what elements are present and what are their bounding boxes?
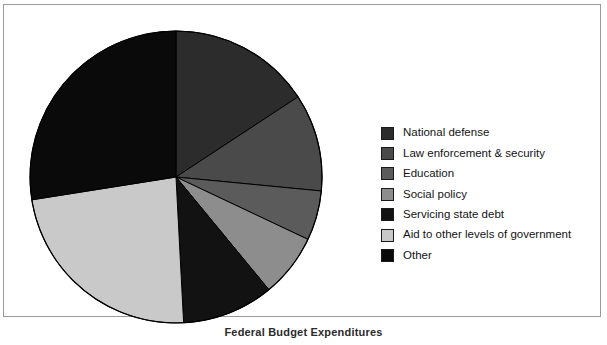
legend-color-swatch xyxy=(381,167,394,180)
legend-item-label: National defense xyxy=(403,127,489,139)
chart-frame: National defenseLaw enforcement & securi… xyxy=(3,4,601,317)
chart-footer-caption: Federal Budget Expenditures xyxy=(0,326,607,345)
pie-slice xyxy=(32,177,184,323)
pie-slice-group xyxy=(30,31,322,323)
legend-item-label: Social policy xyxy=(403,189,467,201)
chart-legend: National defenseLaw enforcement & securi… xyxy=(381,123,596,266)
pie-slice xyxy=(30,31,176,200)
pie-chart xyxy=(29,25,329,325)
legend-item: Other xyxy=(381,245,596,265)
legend-item-label: Law enforcement & security xyxy=(403,148,545,160)
legend-item: Aid to other levels of government xyxy=(381,225,596,245)
legend-item-label: Education xyxy=(403,168,454,180)
legend-color-swatch xyxy=(381,208,394,221)
legend-color-swatch xyxy=(381,127,394,140)
legend-item-label: Aid to other levels of government xyxy=(403,229,571,241)
legend-color-swatch xyxy=(381,249,394,262)
legend-item: Education xyxy=(381,164,596,184)
legend-color-swatch xyxy=(381,147,394,160)
legend-item-label: Servicing state debt xyxy=(403,209,504,221)
legend-item: Social policy xyxy=(381,184,596,204)
legend-item: National defense xyxy=(381,123,596,143)
pie-svg xyxy=(29,25,329,325)
legend-color-swatch xyxy=(381,188,394,201)
legend-color-swatch xyxy=(381,229,394,242)
legend-item: Servicing state debt xyxy=(381,205,596,225)
legend-item: Law enforcement & security xyxy=(381,143,596,163)
legend-item-label: Other xyxy=(403,250,432,262)
